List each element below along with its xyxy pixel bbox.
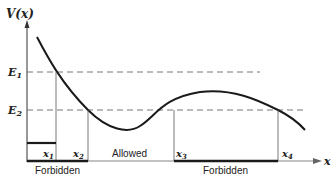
- x1-label: x1: [42, 148, 54, 161]
- potential-curve: [37, 37, 305, 130]
- x-axis-arrow-icon: [313, 158, 322, 164]
- potential-energy-diagram: V(x) x E1 E2 x1 x2 x3 x4 Forbidden Allow…: [0, 0, 333, 183]
- allowed-label: Allowed: [112, 148, 147, 159]
- forbidden-left-label: Forbidden: [35, 165, 80, 176]
- x4-label: x4: [281, 148, 293, 161]
- x-axis-label: x: [323, 155, 331, 168]
- x3-label: x3: [175, 148, 187, 161]
- y-axis-label: V(x): [6, 7, 34, 21]
- x2-label: x2: [72, 148, 84, 161]
- e2-label: E2: [7, 104, 22, 118]
- e1-label: E1: [7, 66, 22, 80]
- y-axis-arrow-icon: [25, 20, 30, 28]
- forbidden-right-label: Forbidden: [203, 165, 248, 176]
